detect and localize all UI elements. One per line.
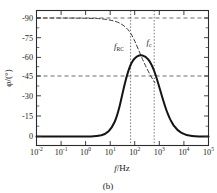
f-rc-label: fRC <box>114 41 124 52</box>
svg-text:10-2: 10-2 <box>30 146 43 157</box>
y-tick-label-5: -15 <box>22 112 33 121</box>
x-tick-label-5: 103 <box>154 146 165 157</box>
x-tick-label-3: 101 <box>105 146 116 157</box>
y-tick-label-4: -30 <box>22 92 33 101</box>
svg-text:101: 101 <box>105 146 116 157</box>
resonance-phase-solid-curve <box>37 55 209 136</box>
x-tick-label-7: 105 <box>203 146 214 157</box>
svg-text:100: 100 <box>80 146 91 157</box>
x-tick-label-1: 10-1 <box>55 146 68 157</box>
x-tick-label-4: 102 <box>129 146 140 157</box>
svg-text:104: 104 <box>178 146 189 157</box>
y-tick-label-0: -90 <box>22 14 33 23</box>
svg-text:103: 103 <box>154 146 165 157</box>
phase-response-chart: -90 -75 -60 -45 -30 -15 0 10-2 <box>0 0 217 193</box>
svg-text:105: 105 <box>203 146 214 157</box>
x-tick-label-2: 100 <box>80 146 91 157</box>
x-axis-title: f/Hz <box>114 163 130 173</box>
rc-phase-dashed-curve <box>37 18 156 83</box>
figure-caption: (b) <box>103 181 114 191</box>
x-tick-label-0: 10-2 <box>30 146 43 157</box>
figure-panel: -90 -75 -60 -45 -30 -15 0 10-2 <box>0 0 217 193</box>
y-tick-label-3: -45 <box>22 72 33 81</box>
plot-frame <box>37 11 209 146</box>
f-c-label: fc <box>147 37 152 48</box>
svg-text:102: 102 <box>129 146 140 157</box>
svg-text:10-1: 10-1 <box>55 146 68 157</box>
y-axis-title: φ/(°) <box>3 69 13 86</box>
y-axis-ticks <box>37 18 209 136</box>
y-tick-label-2: -60 <box>22 53 33 62</box>
x-tick-label-6: 104 <box>178 146 189 157</box>
y-tick-label-6: 0 <box>29 132 33 141</box>
x-axis-ticks <box>37 11 209 146</box>
y-tick-label-1: -75 <box>22 34 33 43</box>
